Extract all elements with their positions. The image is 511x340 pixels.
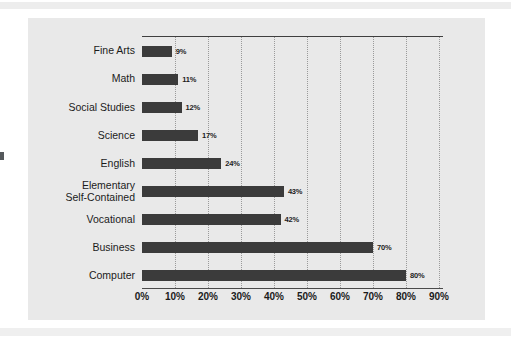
bar[interactable] bbox=[142, 214, 281, 225]
bar-rows: Fine Arts9%Math11%Social Studies12%Scien… bbox=[142, 37, 439, 288]
x-tick-label: 50% bbox=[297, 291, 317, 302]
category-label: Business bbox=[5, 242, 135, 254]
bar-value-label: 17% bbox=[202, 131, 216, 140]
bar[interactable] bbox=[142, 74, 178, 85]
x-tick-label: 30% bbox=[231, 291, 251, 302]
bar-row[interactable]: English24% bbox=[142, 149, 511, 177]
category-label: Fine Arts bbox=[5, 45, 135, 57]
category-label: Computer bbox=[5, 270, 135, 282]
bar-value-label: 9% bbox=[176, 47, 186, 56]
bar-row[interactable]: Social Studies12% bbox=[142, 93, 511, 121]
bar-row[interactable]: Computer80% bbox=[142, 262, 511, 290]
x-tick-label: 70% bbox=[363, 291, 383, 302]
bar[interactable] bbox=[142, 158, 221, 169]
bar[interactable] bbox=[142, 46, 172, 57]
x-tick-label: 60% bbox=[330, 291, 350, 302]
bar[interactable] bbox=[142, 242, 373, 253]
x-tick-label: 20% bbox=[198, 291, 218, 302]
category-label: Social Studies bbox=[5, 102, 135, 114]
category-label: Math bbox=[5, 73, 135, 85]
bar[interactable] bbox=[142, 270, 406, 281]
scan-artifact-band-bottom bbox=[0, 328, 511, 336]
bar-value-label: 43% bbox=[288, 187, 302, 196]
category-label: English bbox=[5, 158, 135, 170]
category-label: Science bbox=[5, 130, 135, 142]
scan-artifact-band-top bbox=[0, 2, 511, 9]
bar-row[interactable]: Business70% bbox=[142, 234, 511, 262]
bar[interactable] bbox=[142, 130, 198, 141]
chart-panel: Fine Arts9%Math11%Social Studies12%Scien… bbox=[28, 18, 485, 320]
plot-area: Fine Arts9%Math11%Social Studies12%Scien… bbox=[142, 36, 439, 289]
bar-row[interactable]: Math11% bbox=[142, 65, 511, 93]
category-label: Vocational bbox=[5, 214, 135, 226]
x-tick-label: 80% bbox=[396, 291, 416, 302]
bar-row[interactable]: Science17% bbox=[142, 121, 511, 149]
category-label: Elementary Self-Contained bbox=[5, 180, 135, 203]
bar-value-label: 12% bbox=[186, 103, 200, 112]
bar-value-label: 42% bbox=[285, 215, 299, 224]
bar-value-label: 24% bbox=[225, 159, 239, 168]
page-edge-mark bbox=[0, 152, 4, 160]
bar-value-label: 11% bbox=[182, 75, 196, 84]
x-tick-label: 90% bbox=[429, 291, 449, 302]
bar-row[interactable]: Fine Arts9% bbox=[142, 37, 511, 65]
bar-value-label: 80% bbox=[410, 271, 424, 280]
x-axis-ticks: 0%10%20%30%40%50%60%70%80%90% bbox=[142, 291, 443, 307]
x-tick-label: 40% bbox=[264, 291, 284, 302]
bar-row[interactable]: Elementary Self-Contained43% bbox=[142, 178, 511, 206]
bar-value-label: 70% bbox=[377, 243, 391, 252]
x-tick-label: 10% bbox=[165, 291, 185, 302]
bar[interactable] bbox=[142, 102, 182, 113]
x-tick-label: 0% bbox=[135, 291, 149, 302]
bar[interactable] bbox=[142, 186, 284, 197]
bar-row[interactable]: Vocational42% bbox=[142, 206, 511, 234]
